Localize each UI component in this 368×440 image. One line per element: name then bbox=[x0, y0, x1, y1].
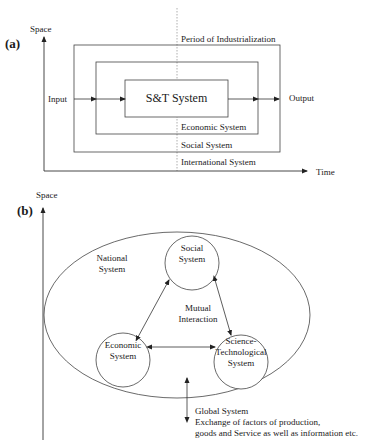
national-system-label-2: System bbox=[84, 264, 140, 274]
global-system-desc-2: goods and Service as well as information… bbox=[195, 428, 358, 438]
global-system-desc-1: Exchange of factors of production, bbox=[195, 417, 320, 427]
social-node-label-2: System bbox=[165, 254, 219, 264]
scitech-node-label-2: Technological bbox=[211, 347, 271, 357]
panel-a-graphics bbox=[44, 8, 307, 171]
output-label: Output bbox=[289, 93, 314, 103]
diagram-canvas bbox=[0, 0, 368, 440]
panel-b-label: (b) bbox=[17, 204, 33, 218]
international-system-layer-label: International System bbox=[181, 157, 256, 167]
time-axis-label: Time bbox=[316, 167, 335, 177]
scitech-node-label-1: Science- bbox=[211, 336, 271, 346]
national-system-label-1: National bbox=[84, 253, 140, 263]
space-axis-label-b: Space bbox=[36, 190, 58, 200]
panel-a-label: (a) bbox=[5, 37, 20, 51]
economic-node-label-2: System bbox=[95, 351, 151, 361]
economic-system-layer-label: Economic System bbox=[181, 122, 246, 132]
global-system-label: Global System bbox=[195, 406, 248, 416]
st-system-label: S&T System bbox=[125, 92, 228, 105]
social-node-label-1: Social bbox=[165, 243, 219, 253]
input-label: Input bbox=[48, 94, 67, 104]
space-axis-label-a: Space bbox=[30, 24, 52, 34]
social-system-layer-label: Social System bbox=[181, 140, 232, 150]
mutual-label-2: Interaction bbox=[168, 314, 228, 324]
scitech-node-label-3: System bbox=[211, 358, 271, 368]
mutual-label-1: Mutual bbox=[168, 303, 228, 313]
industrialization-label: Period of Industrialization bbox=[181, 34, 275, 44]
economic-node-label-1: Economic bbox=[95, 340, 151, 350]
